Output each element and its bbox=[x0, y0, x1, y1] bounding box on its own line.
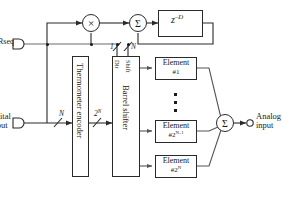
dem-dac-block-diagram: × Σ Σ z–D Thermometer encoder Barrel shi… bbox=[0, 0, 283, 197]
element-1-base: 1 bbox=[176, 68, 180, 76]
ellipsis-dot-2 bbox=[174, 101, 177, 104]
bus-label-dir-width: 1 bbox=[110, 43, 114, 51]
bus-label-shift-width: N bbox=[131, 43, 136, 51]
element-3-label: Element #2N bbox=[155, 157, 197, 175]
rseq-port-label: Rseq bbox=[0, 38, 12, 46]
digital-input-label: Digital input bbox=[0, 112, 12, 130]
ellipsis-dot-1 bbox=[174, 93, 177, 96]
adder-symbol: Σ bbox=[135, 18, 141, 29]
thermometer-encoder-label: Thermometer encoder bbox=[75, 63, 85, 138]
junction-dot-multiplier-input bbox=[90, 43, 93, 46]
output-summer-symbol: Σ bbox=[222, 118, 228, 129]
element-1-name: Element bbox=[163, 58, 190, 67]
dir-label: Dir bbox=[114, 60, 121, 69]
ellipsis-dot-3 bbox=[174, 109, 177, 112]
shift-label: Shift bbox=[125, 60, 132, 73]
barrel-shifter-label: Barrel shifter bbox=[121, 85, 131, 130]
element-3-exponent: N bbox=[178, 164, 181, 169]
multiplier-node: × bbox=[82, 14, 100, 32]
junction-dot-shift bbox=[127, 43, 130, 46]
element-1-label: Element #1 bbox=[155, 59, 197, 77]
multiplier-symbol: × bbox=[88, 17, 94, 29]
delay-block-label: z–D bbox=[171, 15, 183, 26]
digital-input-line2: input bbox=[0, 120, 8, 130]
junction-dot-rseq bbox=[46, 43, 49, 46]
output-summer-node: Σ bbox=[216, 114, 234, 132]
element-2-label: Element #2N–1 bbox=[155, 122, 197, 140]
delay-exponent: –D bbox=[175, 13, 183, 20]
analog-input-label: Analog input bbox=[256, 112, 281, 130]
bus-label-digital-width: N bbox=[59, 110, 64, 118]
adder-node: Σ bbox=[129, 14, 147, 32]
junction-dot-dir bbox=[116, 43, 119, 46]
bus-label-thermometer-width: 2N bbox=[94, 110, 101, 118]
element-3-name: Element bbox=[163, 156, 190, 165]
thermometer-width-exponent: N bbox=[98, 108, 101, 114]
element-2-exponent: N–1 bbox=[175, 129, 183, 134]
analog-input-line2: input bbox=[256, 120, 273, 130]
